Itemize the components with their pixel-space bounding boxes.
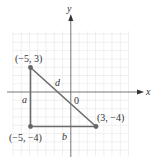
- triangle: [31, 68, 97, 127]
- point-a-label: (−5, 3): [15, 53, 42, 65]
- segment-b-label: b: [62, 131, 67, 142]
- segment-a-label: a: [22, 94, 27, 105]
- y-axis-arrow-icon: [68, 14, 73, 21]
- origin-label: 0: [74, 95, 79, 106]
- x-axis-arrow-icon: [137, 90, 144, 95]
- coordinate-diagram: x y 0 (−5, 3) (−5, −4) (3, −4) a b d: [0, 0, 159, 168]
- point-c-label: (3, −4): [97, 112, 124, 124]
- point-a-marker: [28, 65, 33, 70]
- point-b-marker: [28, 124, 33, 129]
- point-c-marker: [94, 124, 99, 129]
- point-b-label: (−5, −4): [9, 132, 42, 144]
- x-axis-label: x: [145, 86, 151, 97]
- segment-d-label: d: [55, 77, 61, 88]
- y-axis-label: y: [66, 3, 72, 14]
- segment-d: [31, 68, 97, 127]
